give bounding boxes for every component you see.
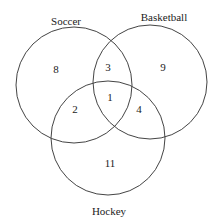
basketball-label: Basketball (141, 11, 187, 23)
region-soccer-hockey: 2 (72, 103, 78, 115)
venn-diagram: Soccer Basketball Hockey 8 3 9 1 2 4 11 (0, 0, 216, 223)
soccer-circle (16, 27, 132, 143)
region-soccer-basketball: 3 (105, 61, 111, 73)
soccer-label: Soccer (51, 15, 81, 27)
basketball-circle (93, 25, 207, 139)
region-all-three: 1 (107, 91, 113, 103)
region-soccer-only: 8 (53, 63, 59, 75)
region-basketball-hockey: 4 (136, 103, 142, 115)
hockey-label: Hockey (92, 205, 127, 217)
region-hockey-only: 11 (105, 157, 116, 169)
region-basketball-only: 9 (160, 61, 166, 73)
